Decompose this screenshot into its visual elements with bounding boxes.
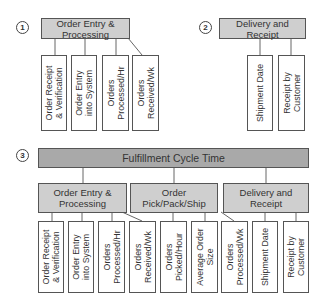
leaf-orders-picked-hour: Orders Picked/Hour (160, 221, 187, 293)
section-number-badge: 1 (16, 21, 29, 34)
leaf-orders-received-wk: Orders Received/Wk (129, 221, 156, 293)
order-entry-processing-header: Order Entry & Processing (41, 18, 130, 39)
leaf-order-receipt-verification: Order Receipt & Verification (38, 221, 64, 293)
leaf-label: Receipt by Customer (286, 236, 306, 278)
leaf-order-entry-into-system: Order Entry into System (68, 221, 94, 293)
leaf-average-order-size: Average Order Size (191, 221, 218, 293)
leaf-label: Orders Received/Wk (133, 231, 153, 283)
group-order-pick-pack-ship: Order Pick/Pack/Ship (130, 183, 218, 213)
leaf-label: Orders Picked/Hour (164, 233, 184, 281)
leaf-label: Average Order Size (195, 228, 215, 286)
leaf-label: Shipment Date (260, 228, 270, 286)
leaf-receipt-by-customer: Receipt by Customer (283, 221, 309, 293)
leaf-orders-processed-hr: Orders Processed/Hr (102, 55, 129, 131)
leaf-orders-processed-wk: Orders Processed/Wk (221, 221, 248, 293)
leaf-label: Receipt by Customer (282, 72, 302, 114)
leaf-shipment-date: Shipment Date (247, 55, 273, 131)
leaf-receipt-by-customer: Receipt by Customer (278, 55, 305, 131)
leaf-orders-received-wk: Orders Received/Wk (132, 55, 159, 131)
leaf-label: Orders Processed/Hr (106, 66, 126, 119)
group-order-entry-processing: Order Entry & Processing (38, 183, 127, 213)
leaf-order-receipt-verification: Order Receipt & Verification (41, 55, 67, 131)
leaf-label: Shipment Date (255, 64, 265, 122)
delivery-receipt-header: Delivery and Receipt (219, 18, 306, 39)
group-delivery-receipt: Delivery and Receipt (223, 183, 309, 213)
leaf-label: Order Entry into System (74, 70, 94, 116)
leaf-order-entry-into-system: Order Entry into System (71, 55, 97, 131)
leaf-orders-processed-hr: Orders Processed/Hr (98, 221, 125, 293)
leaf-label: Order Receipt & Verification (41, 230, 61, 285)
fulfillment-cycle-time-header: Fulfillment Cycle Time (38, 148, 309, 168)
leaf-label: Order Receipt & Verification (44, 66, 64, 121)
leaf-label: Orders Processed/Wk (225, 229, 245, 286)
section-number-badge: 2 (199, 21, 212, 34)
leaf-label: Orders Received/Wk (136, 67, 156, 119)
leaf-shipment-date: Shipment Date (252, 221, 278, 293)
section-number-badge: 3 (16, 149, 29, 162)
leaf-label: Orders Processed/Hr (102, 230, 122, 283)
leaf-label: Order Entry into System (71, 234, 91, 280)
